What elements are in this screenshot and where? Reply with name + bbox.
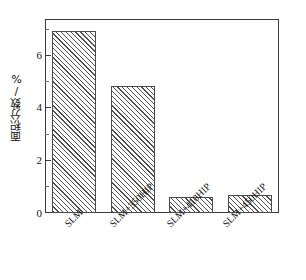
- bar-chart: 面积分数/% 6 4 2 0 SLM SLM+350HIP SLM+410HIP…: [0, 0, 306, 280]
- y-tick-label-0: 0: [18, 208, 42, 219]
- y-minor-tick-5: [45, 81, 49, 82]
- y-minor-tick-7: [45, 29, 49, 30]
- y-major-tick-0: [45, 212, 51, 213]
- y-tick-label-6: 6: [18, 50, 42, 61]
- y-minor-tick-3: [45, 134, 49, 135]
- y-major-tick-2: [45, 160, 51, 161]
- y-tick-label-4: 4: [18, 102, 42, 113]
- y-major-tick-6: [45, 55, 51, 56]
- bar-slm: [52, 31, 96, 213]
- y-major-tick-4: [45, 107, 51, 108]
- y-tick-label-2: 2: [18, 155, 42, 166]
- y-minor-tick-1: [45, 186, 49, 187]
